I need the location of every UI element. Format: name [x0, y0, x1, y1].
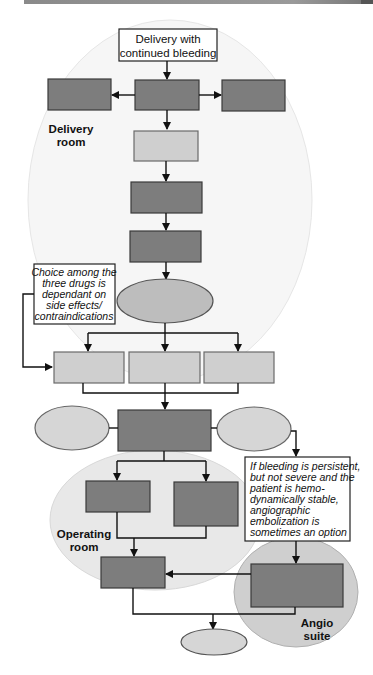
- left-option-ellipse: [35, 406, 109, 450]
- drug-3-box: [204, 352, 274, 383]
- start-label-2: continued bleeding: [120, 47, 217, 59]
- central-step-box: [118, 410, 211, 451]
- step-right-box: [222, 80, 285, 111]
- angio-suite-label-1: Angio: [301, 617, 334, 629]
- step-left-box: [48, 79, 111, 110]
- step-4-box: [130, 231, 201, 262]
- drug-2-box: [129, 352, 200, 383]
- start-label-1: Delivery with: [135, 33, 200, 45]
- right-option-ellipse: [217, 407, 291, 451]
- operating-room-label-1: Operating: [57, 528, 111, 540]
- outcome-ellipse: [181, 629, 247, 655]
- or-step-right-box: [174, 482, 238, 526]
- angio-suite-label-2: suite: [304, 630, 331, 642]
- flowchart: Delivery with continued bleeding Deliver…: [0, 0, 373, 675]
- delivery-room-label-1: Delivery: [49, 123, 94, 135]
- drug-1-box: [54, 352, 124, 383]
- or-step-left-box: [86, 481, 150, 512]
- angio-note-line: sometimes an option: [250, 526, 347, 538]
- step-2-box: [134, 131, 198, 161]
- or-final-box: [101, 557, 165, 588]
- decision-ellipse: [117, 279, 213, 323]
- angio-step-box: [251, 564, 343, 607]
- delivery-room-label-2: room: [57, 136, 86, 148]
- operating-room-label-2: room: [70, 541, 99, 553]
- step-initial-box: [135, 80, 199, 110]
- drug-choice-note-line: contraindications: [35, 310, 115, 322]
- step-3-box: [131, 182, 202, 213]
